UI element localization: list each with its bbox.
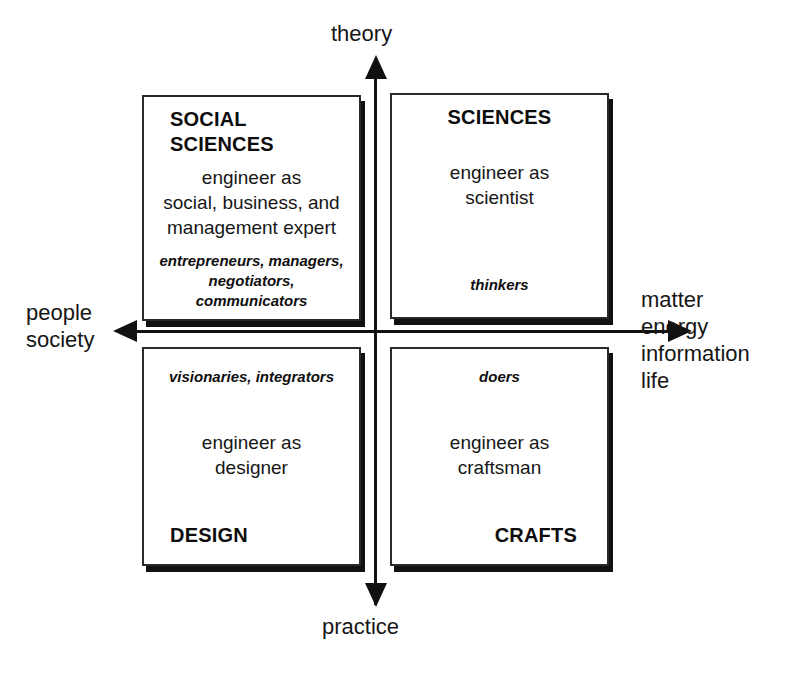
- quadrant-roles-social-sciences: entrepreneurs, managers, negotiators, co…: [158, 251, 345, 311]
- quadrant-social-sciences: SOCIAL SCIENCES engineer as social, busi…: [142, 95, 361, 321]
- spacer: [158, 157, 345, 165]
- horizontal-axis-line: [124, 330, 683, 333]
- spacer: [158, 240, 345, 251]
- spacer: [158, 359, 345, 367]
- quadrant-heading-social-sciences: SOCIAL SCIENCES: [158, 107, 345, 157]
- axis-label-people-society: people society: [26, 299, 94, 353]
- spacer: [158, 387, 345, 430]
- quadrant-heading-sciences: SCIENCES: [406, 105, 593, 130]
- spacer: [406, 210, 593, 275]
- quadrant-sciences: SCIENCES engineer as scientist thinkers: [390, 93, 609, 319]
- spacer: [406, 295, 593, 309]
- quadrant-body-social-sciences: engineer as social, business, and manage…: [158, 165, 345, 240]
- quadrant-crafts: doers engineer as craftsman CRAFTS: [390, 347, 609, 566]
- axis-label-practice: practice: [322, 613, 399, 640]
- quadrant-roles-sciences: thinkers: [406, 275, 593, 295]
- arrow-up-icon: [365, 55, 387, 79]
- quadrant-heading-crafts: CRAFTS: [406, 523, 593, 548]
- quadrant-body-design: engineer as designer: [158, 430, 345, 480]
- quadrant-heading-design: DESIGN: [158, 523, 345, 548]
- arrow-left-icon: [113, 320, 137, 342]
- arrow-down-icon: [365, 583, 387, 607]
- quadrant-diagram: theory practice people society matter en…: [0, 0, 793, 676]
- spacer: [158, 548, 345, 556]
- spacer: [406, 548, 593, 556]
- vertical-axis-line: [374, 66, 377, 605]
- quadrant-design: visionaries, integrators engineer as des…: [142, 347, 361, 566]
- quadrant-roles-crafts: doers: [406, 367, 593, 387]
- quadrant-roles-design: visionaries, integrators: [158, 367, 345, 387]
- quadrant-body-crafts: engineer as craftsman: [406, 430, 593, 480]
- spacer: [406, 130, 593, 160]
- spacer: [406, 359, 593, 367]
- quadrant-body-sciences: engineer as scientist: [406, 160, 593, 210]
- axis-label-matter-energy-information-life: matter energy information life: [641, 286, 750, 394]
- spacer: [158, 480, 345, 523]
- spacer: [406, 480, 593, 523]
- axis-label-theory: theory: [331, 20, 392, 47]
- spacer: [406, 387, 593, 430]
